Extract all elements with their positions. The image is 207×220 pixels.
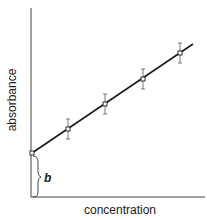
data-point xyxy=(66,127,70,131)
intercept-brace xyxy=(33,156,41,197)
data-point xyxy=(141,77,145,81)
data-point xyxy=(103,102,107,106)
calibration-chart: b concentration absorbance xyxy=(0,0,207,220)
data-point xyxy=(178,51,182,55)
x-axis-label: concentration xyxy=(84,203,156,217)
intercept-label: b xyxy=(44,171,51,185)
data-point xyxy=(30,151,34,155)
y-axis-label: absorbance xyxy=(5,68,19,131)
chart-svg: b concentration absorbance xyxy=(0,0,207,220)
fit-line xyxy=(32,44,193,153)
